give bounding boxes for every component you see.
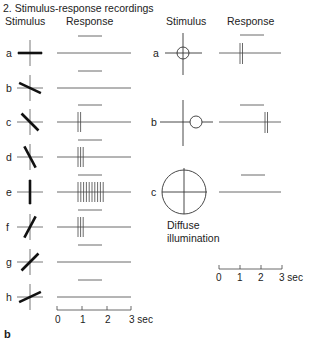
left-row-h: h <box>6 280 131 310</box>
left-row-a: a <box>6 36 131 66</box>
oriented-bar-stimulus-icon <box>17 40 43 66</box>
left-header-stimulus: Stimulus <box>5 15 45 27</box>
response-trace <box>57 71 131 88</box>
right-time-axis <box>219 265 282 269</box>
left-row-label: g <box>6 256 12 268</box>
response-trace-a-right <box>219 35 281 64</box>
right-row-label-a: a <box>153 47 159 59</box>
right-header-response: Response <box>227 15 274 27</box>
left-row-c: c <box>6 105 131 135</box>
right-row-label-c: c <box>151 186 156 198</box>
stimulus-diffuse-spot-icon <box>162 168 207 214</box>
response-trace <box>57 175 131 202</box>
response-trace <box>57 140 131 167</box>
response-trace <box>57 280 131 297</box>
left-tick-3: 3 sec <box>129 314 153 325</box>
diffuse-label-line1: Diffuse <box>167 219 200 231</box>
left-header-response: Response <box>66 15 113 27</box>
left-row-b: b <box>6 71 131 101</box>
right-tick-2: 2 <box>258 272 264 283</box>
right-tick-0: 0 <box>216 272 222 283</box>
left-row-f: f <box>6 210 131 240</box>
left-row-e: e <box>6 175 131 205</box>
oriented-bar-stimulus-icon <box>17 75 43 101</box>
left-row-label: c <box>6 116 11 128</box>
left-row-label: a <box>6 47 12 59</box>
left-row-label: e <box>6 186 12 198</box>
figure-title: 2. Stimulus-response recordings <box>3 2 154 14</box>
response-trace <box>57 245 131 262</box>
left-recordings: abcdefgh <box>6 36 131 310</box>
stimulus-offcenter-spot-icon <box>160 100 213 146</box>
oriented-bar-stimulus-icon <box>17 109 43 135</box>
oriented-bar-stimulus-icon <box>17 179 43 205</box>
right-tick-3: 3 sec <box>279 272 303 283</box>
oriented-bar-stimulus-icon <box>17 144 43 170</box>
response-trace <box>57 36 131 53</box>
response-trace <box>57 210 131 237</box>
left-tick-0: 0 <box>55 314 61 325</box>
panel-label: b <box>4 328 11 340</box>
left-row-g: g <box>6 245 131 275</box>
left-row-label: f <box>6 221 9 233</box>
left-row-label: d <box>6 151 12 163</box>
response-trace <box>57 105 131 132</box>
right-row-label-b: b <box>151 116 157 128</box>
right-header-stimulus: Stimulus <box>166 15 206 27</box>
left-time-axis <box>57 306 131 310</box>
left-row-label: b <box>6 82 12 94</box>
diffuse-label-line2: illumination <box>167 232 220 244</box>
left-tick-1: 1 <box>80 314 86 325</box>
left-row-label: h <box>6 291 12 303</box>
response-trace-c-right <box>219 175 281 192</box>
oriented-bar-stimulus-icon <box>17 284 43 310</box>
right-tick-1: 1 <box>237 272 243 283</box>
left-tick-2: 2 <box>105 314 111 325</box>
oriented-bar-stimulus-icon <box>17 214 43 240</box>
diagram-canvas: 2. Stimulus-response recordings Stimulus… <box>0 0 309 343</box>
left-row-d: d <box>6 140 131 170</box>
response-trace-b-right <box>219 105 281 133</box>
stimulus-centered-spot-icon <box>165 33 202 75</box>
oriented-bar-stimulus-icon <box>17 249 43 275</box>
